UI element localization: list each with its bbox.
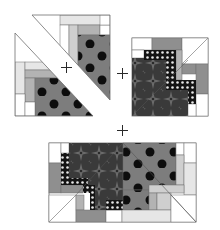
plus-operator-3	[117, 125, 128, 136]
diagram-drawing	[0, 0, 220, 230]
quilt-assembly-diagram	[0, 0, 220, 230]
quarter-block-unit	[132, 38, 208, 116]
assembled-half-block	[49, 143, 196, 222]
plus-operator-1	[61, 62, 72, 73]
plus-operator-2	[117, 68, 128, 79]
